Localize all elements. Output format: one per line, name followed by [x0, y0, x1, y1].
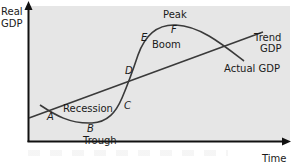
faint-caption: [28, 150, 228, 156]
point-a-label: A: [47, 112, 54, 122]
x-axis-arrow-icon: [282, 138, 291, 146]
trend-gdp-label: Trend GDP: [254, 32, 281, 54]
recession-label: Recession: [63, 104, 113, 114]
chart-canvas: [0, 0, 292, 165]
x-axis-label: Time: [262, 154, 286, 164]
actual-gdp-label: Actual GDP: [224, 64, 280, 74]
trough-label: Trough: [83, 136, 117, 146]
point-e-label: E: [141, 33, 147, 43]
point-f-label: F: [171, 25, 177, 35]
peak-label: Peak: [163, 10, 187, 20]
y-axis-label-line1: Real: [1, 6, 23, 18]
y-axis-arrow-icon: [25, 1, 33, 10]
y-axis-label-line2: GDP: [1, 18, 23, 30]
boom-label: Boom: [152, 40, 181, 50]
trend-gdp-label-line1: Trend: [254, 32, 281, 43]
point-c-label: C: [124, 101, 131, 111]
point-b-label: B: [87, 124, 94, 134]
y-axis-label: Real GDP: [1, 6, 23, 30]
trend-gdp-label-line2: GDP: [254, 43, 281, 54]
point-d-label: D: [125, 66, 133, 76]
